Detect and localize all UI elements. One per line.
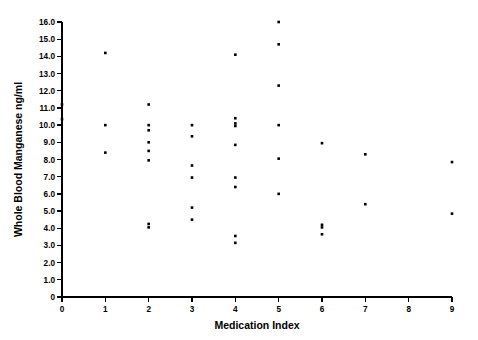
data-point — [234, 144, 237, 147]
x-axis-tick-label: 6 — [320, 305, 325, 314]
x-axis-tick-label: 3 — [190, 305, 195, 314]
data-point — [234, 186, 237, 189]
y-axis-tick-label: 0 — [50, 293, 55, 302]
y-axis: 01.02.03.04.05.06.07.08.09.010.011.012.0… — [39, 18, 62, 302]
data-point — [147, 141, 150, 144]
x-axis-tick-label: 2 — [146, 305, 151, 314]
data-point — [277, 157, 280, 160]
data-point — [234, 117, 237, 120]
data-point — [234, 176, 237, 179]
y-axis-tick-label: 12.0 — [39, 87, 55, 96]
data-point — [191, 218, 194, 221]
data-point — [147, 226, 150, 229]
y-axis-tick-label: 14.0 — [39, 52, 55, 61]
x-axis-title: Medication Index — [214, 319, 299, 331]
y-axis-tick-label: 16.0 — [39, 18, 55, 27]
data-point — [191, 124, 194, 127]
data-point — [191, 176, 194, 179]
data-point — [104, 124, 107, 127]
data-point — [61, 103, 64, 106]
x-axis-tick-label: 5 — [276, 305, 281, 314]
y-axis-tick-label: 13.0 — [39, 70, 55, 79]
y-axis-tick-label: 3.0 — [44, 241, 56, 250]
y-axis-tick-label: 6.0 — [44, 190, 56, 199]
data-point — [191, 135, 194, 138]
data-points-layer — [61, 21, 454, 244]
x-axis-tick-label: 1 — [103, 305, 108, 314]
y-axis-tick-label: 11.0 — [40, 104, 56, 113]
data-point — [364, 153, 367, 156]
data-point — [234, 235, 237, 238]
y-axis-tick-label: 7.0 — [44, 173, 56, 182]
data-point — [104, 52, 107, 55]
data-point — [147, 124, 150, 127]
data-point — [277, 193, 280, 196]
y-axis-tick-label: 10.0 — [39, 121, 55, 130]
data-point — [321, 233, 324, 236]
data-point — [364, 203, 367, 206]
data-point — [451, 212, 454, 215]
data-point — [277, 84, 280, 87]
data-point — [321, 142, 324, 145]
data-point — [277, 43, 280, 46]
y-axis-tick-label: 9.0 — [44, 138, 56, 147]
data-point — [147, 223, 150, 226]
data-point — [234, 242, 237, 245]
y-axis-tick-label: 2.0 — [44, 259, 56, 268]
data-point — [147, 150, 150, 153]
data-point — [191, 164, 194, 167]
data-point — [321, 226, 324, 229]
scatter-plot-svg: 01.02.03.04.05.06.07.08.09.010.011.012.0… — [0, 0, 478, 340]
x-axis-tick-label: 4 — [233, 305, 238, 314]
data-point — [61, 118, 64, 121]
chart-page: 01.02.03.04.05.06.07.08.09.010.011.012.0… — [0, 0, 478, 340]
x-axis-tick-label: 8 — [406, 305, 411, 314]
y-axis-tick-label: 8.0 — [44, 156, 56, 165]
x-axis-tick-label: 0 — [60, 305, 65, 314]
data-point — [234, 125, 237, 128]
data-point — [191, 206, 194, 209]
data-point — [451, 161, 454, 164]
data-point — [234, 122, 237, 125]
y-axis-tick-label: 1.0 — [44, 276, 56, 285]
x-axis-tick-label: 7 — [363, 305, 368, 314]
data-point — [321, 224, 324, 227]
y-axis-title: Whole Blood Manganese ng/ml — [12, 82, 24, 237]
data-point — [147, 129, 150, 132]
data-point — [234, 53, 237, 56]
x-axis-tick-label: 9 — [450, 305, 455, 314]
y-axis-tick-label: 15.0 — [39, 35, 55, 44]
x-axis: 0123456789 — [60, 297, 455, 314]
data-point — [277, 124, 280, 127]
scatter-plot-container: 01.02.03.04.05.06.07.08.09.010.011.012.0… — [0, 0, 478, 340]
y-axis-tick-label: 4.0 — [44, 224, 56, 233]
data-point — [104, 151, 107, 154]
data-point — [147, 159, 150, 162]
y-axis-tick-label: 5.0 — [44, 207, 56, 216]
data-point — [147, 103, 150, 106]
data-point — [277, 21, 280, 24]
